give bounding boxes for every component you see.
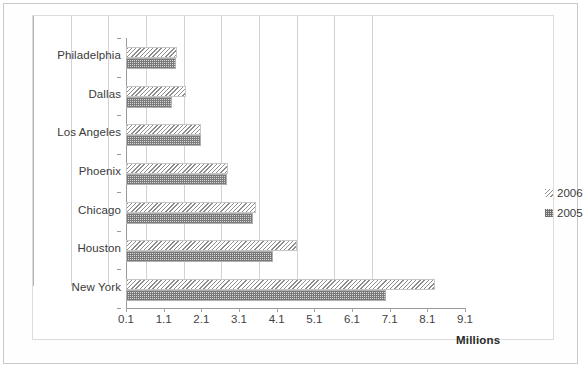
legend-item-2006: 2006: [545, 183, 587, 203]
bar-group: [126, 47, 465, 69]
y-tick: [117, 77, 121, 78]
x-tick-1.1: [164, 308, 165, 312]
bar-group: [126, 240, 465, 262]
x-tick-6.1: [352, 308, 353, 312]
bar-2006-los-angeles: [126, 124, 201, 135]
x-axis-label-5.1: 5.1: [294, 313, 334, 325]
value-axis-line: [126, 308, 466, 309]
x-tick-0.1: [126, 308, 127, 312]
bar-group: [126, 124, 465, 146]
category-label-new-york: New York: [35, 281, 121, 293]
x-tick-3.1: [239, 308, 240, 312]
x-axis-label-6.1: 6.1: [332, 313, 372, 325]
bar-2006-new-york: [126, 279, 435, 290]
category-label-dallas: Dallas: [35, 88, 121, 100]
x-axis-label-0.1: 0.1: [106, 313, 146, 325]
bar-2006-philadelphia: [126, 47, 177, 58]
chart-legend: 20062005: [545, 183, 587, 223]
bar-group: [126, 163, 465, 185]
legend-item-2005: 2005: [545, 203, 587, 223]
swatch-2005-icon: [545, 209, 553, 217]
bar-2005-dallas: [126, 97, 172, 108]
x-axis-label-1.1: 1.1: [144, 313, 184, 325]
x-tick-7.1: [390, 308, 391, 312]
bar-2005-los-angeles: [126, 135, 201, 146]
category-label-los-angeles: Los Angeles: [35, 126, 121, 138]
x-axis-label-4.1: 4.1: [257, 313, 297, 325]
legend-label: 2005: [557, 207, 583, 219]
value-axis-labels: 0.11.12.13.14.15.16.17.18.19.1: [126, 313, 471, 331]
x-axis-label-7.1: 7.1: [370, 313, 410, 325]
category-label-chicago: Chicago: [35, 204, 121, 216]
x-tick-5.1: [314, 308, 315, 312]
bars-area: [126, 38, 465, 308]
x-axis-label-8.1: 8.1: [407, 313, 447, 325]
category-label-phoenix: Phoenix: [35, 165, 121, 177]
y-tick: [117, 192, 121, 193]
category-axis-labels: PhiladelphiaDallasLos AngelesPhoenixChic…: [33, 38, 121, 308]
y-tick: [117, 38, 121, 39]
bar-2005-chicago: [126, 213, 253, 224]
bar-2006-dallas: [126, 86, 186, 97]
bar-2006-phoenix: [126, 163, 228, 174]
x-tick-9.1: [465, 308, 466, 312]
x-axis-label-3.1: 3.1: [219, 313, 259, 325]
bar-group: [126, 279, 465, 301]
x-tick-2.1: [201, 308, 202, 312]
bar-group: [126, 86, 465, 108]
bar-2005-phoenix: [126, 174, 227, 185]
bar-2005-philadelphia: [126, 58, 176, 69]
bar-2005-houston: [126, 251, 273, 262]
y-tick: [117, 308, 121, 309]
y-tick: [117, 115, 121, 116]
y-tick: [117, 269, 121, 270]
value-axis-title: Millions: [456, 334, 500, 346]
x-tick-4.1: [277, 308, 278, 312]
x-axis-label-2.1: 2.1: [181, 313, 221, 325]
bar-2006-houston: [126, 240, 297, 251]
bar-2005-new-york: [126, 290, 386, 301]
page-border: PhiladelphiaDallasLos AngelesPhoenixChic…: [3, 3, 578, 364]
bar-group: [126, 202, 465, 224]
chart-plot-frame: PhiladelphiaDallasLos AngelesPhoenixChic…: [32, 15, 554, 340]
y-tick: [117, 154, 121, 155]
category-label-houston: Houston: [35, 242, 121, 254]
y-tick: [117, 231, 121, 232]
x-axis-label-9.1: 9.1: [445, 313, 485, 325]
category-label-philadelphia: Philadelphia: [35, 49, 121, 61]
bar-2006-chicago: [126, 202, 256, 213]
swatch-2006-icon: [545, 189, 553, 197]
x-tick-8.1: [427, 308, 428, 312]
legend-label: 2006: [557, 187, 583, 199]
